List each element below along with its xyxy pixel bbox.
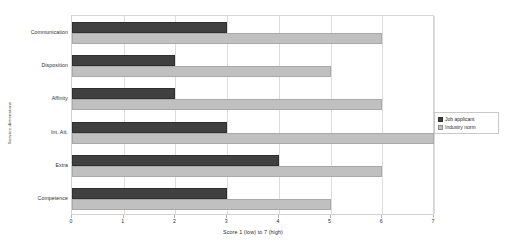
x-axis-tick-labels: 01234567 xyxy=(0,218,505,228)
legend-item[interactable]: Industry norm xyxy=(438,123,496,131)
x-tick-label: 5 xyxy=(320,218,340,224)
x-axis-label: Score 1 (low) to 7 (high) xyxy=(71,229,435,235)
x-tick-label: 6 xyxy=(371,218,391,224)
bar-industry-norm xyxy=(72,199,331,210)
x-tick-label: 7 xyxy=(423,218,443,224)
category-label: Disposition xyxy=(8,62,68,68)
category-label: Int. Att. xyxy=(8,129,68,135)
bar-job-applicant xyxy=(72,155,279,166)
legend-swatch-icon xyxy=(438,125,443,130)
legend-item[interactable]: Job applicant xyxy=(438,115,496,123)
category-label: Affinity xyxy=(8,95,68,101)
x-tick-label: 4 xyxy=(268,218,288,224)
legend-label: Industry norm xyxy=(445,124,476,130)
bar-industry-norm xyxy=(72,33,382,44)
category-label: Extra xyxy=(8,162,68,168)
bar-job-applicant xyxy=(72,88,175,99)
bar-job-applicant xyxy=(72,22,227,33)
x-tick-label: 1 xyxy=(113,218,133,224)
legend-swatch-icon xyxy=(438,117,443,122)
bar-job-applicant xyxy=(72,188,227,199)
chart-legend: Job applicantIndustry norm xyxy=(434,112,499,134)
category-label: Competence xyxy=(8,195,68,201)
bar-industry-norm xyxy=(72,133,434,144)
bar-job-applicant xyxy=(72,55,175,66)
plot-area xyxy=(71,15,434,215)
x-tick-label: 0 xyxy=(61,218,81,224)
bar-industry-norm xyxy=(72,66,331,77)
category-label: Communication xyxy=(8,29,68,35)
bar-chart: Service dimensions CommunicationDisposit… xyxy=(0,0,505,245)
bar-job-applicant xyxy=(72,122,227,133)
y-axis-category-labels: CommunicationDispositionAffinityInt. Att… xyxy=(8,15,68,215)
bar-industry-norm xyxy=(72,99,382,110)
x-tick-label: 3 xyxy=(216,218,236,224)
bars-layer xyxy=(72,16,433,214)
legend-label: Job applicant xyxy=(445,116,474,122)
x-tick-label: 2 xyxy=(164,218,184,224)
bar-industry-norm xyxy=(72,166,382,177)
